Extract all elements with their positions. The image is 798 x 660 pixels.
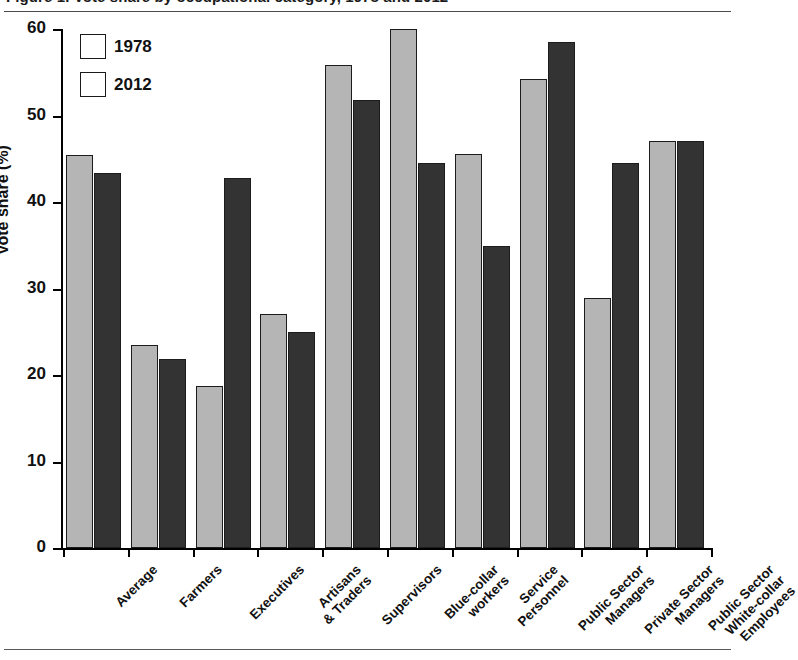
y-tick-label-60: 60 (0, 18, 46, 38)
x-axis-label-8: Private Sector Managers (642, 562, 728, 648)
bar-1978-0[interactable] (66, 155, 93, 548)
x-tick-9 (646, 548, 648, 557)
bar-1978-8[interactable] (584, 298, 611, 548)
bar-1978-3[interactable] (260, 314, 287, 548)
x-tick-1 (128, 548, 130, 557)
bar-1978-2[interactable] (196, 386, 223, 548)
x-tick-2 (193, 548, 195, 557)
bar-1978-1[interactable] (131, 345, 158, 548)
y-tick-40 (53, 202, 62, 204)
chart-legend: 1978 2012 (80, 34, 152, 110)
figure-caption: Figure 1. Vote share by occupational cat… (6, 0, 448, 5)
figure-caption-strip: Figure 1. Vote share by occupational cat… (0, 0, 735, 9)
bar-2012-3[interactable] (288, 332, 315, 548)
bar-2012-2[interactable] (224, 178, 251, 548)
x-axis-label-6: Service Personnel (505, 562, 573, 630)
x-tick-8 (581, 548, 583, 557)
x-tick-4 (322, 548, 324, 557)
y-tick-10 (53, 462, 62, 464)
y-tick-label-30: 30 (0, 278, 46, 298)
x-axis-label-3: Artisans & Traders (309, 562, 374, 627)
bar-2012-7[interactable] (548, 42, 575, 548)
bar-2012-6[interactable] (483, 246, 510, 548)
y-tick-0 (53, 548, 62, 550)
x-axis-label-5: Blue-collar workers (441, 562, 512, 633)
x-tick-3 (257, 548, 259, 557)
y-tick-label-0: 0 (0, 537, 46, 557)
x-axis-line (61, 548, 711, 550)
x-axis-label-4: Supervisors (379, 562, 445, 628)
x-tick-7 (517, 548, 519, 557)
legend-label-1978: 1978 (114, 37, 152, 57)
y-tick-label-40: 40 (0, 191, 46, 211)
bar-2012-9[interactable] (677, 141, 704, 548)
x-axis-label-7: Public Sector Managers (576, 562, 658, 644)
x-axis-label-1: Farmers (177, 562, 225, 610)
bar-1978-9[interactable] (649, 141, 676, 548)
x-tick-10 (711, 548, 713, 557)
x-axis-label-0: Average (112, 562, 160, 610)
bar-2012-5[interactable] (418, 163, 445, 548)
legend-label-2012: 2012 (114, 75, 152, 95)
legend-swatch-1978 (80, 34, 106, 59)
caption-rule-top (4, 11, 731, 12)
y-tick-50 (53, 116, 62, 118)
bar-1978-7[interactable] (520, 79, 547, 548)
y-tick-30 (53, 289, 62, 291)
bar-1978-5[interactable] (390, 29, 417, 548)
bar-1978-4[interactable] (325, 65, 352, 548)
bar-2012-0[interactable] (94, 173, 121, 548)
bar-2012-1[interactable] (159, 359, 186, 548)
x-tick-6 (452, 548, 454, 557)
x-axis-label-2: Executives (247, 562, 308, 623)
legend-swatch-2012 (80, 72, 106, 97)
legend-item-1978[interactable]: 1978 (80, 34, 152, 59)
bar-1978-6[interactable] (455, 154, 482, 548)
x-tick-0 (63, 548, 65, 557)
y-tick-label-10: 10 (0, 451, 46, 471)
y-tick-label-20: 20 (0, 364, 46, 384)
y-tick-60 (53, 29, 62, 31)
y-tick-20 (53, 375, 62, 377)
bar-2012-8[interactable] (612, 163, 639, 548)
y-tick-label-50: 50 (0, 105, 46, 125)
x-tick-5 (387, 548, 389, 557)
caption-rule-bottom (4, 649, 731, 650)
bar-2012-4[interactable] (353, 100, 380, 548)
legend-item-2012[interactable]: 2012 (80, 72, 152, 97)
